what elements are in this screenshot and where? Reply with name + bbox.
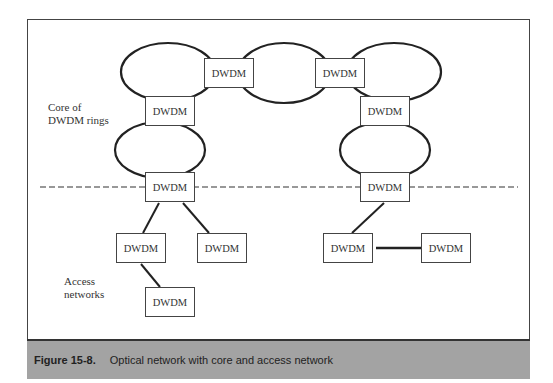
dwdm-node-right-access-a: DWDM — [323, 233, 373, 263]
dwdm-node-right-mid: DWDM — [360, 96, 410, 126]
dwdm-node-left-gateway: DWDM — [145, 172, 195, 202]
core-region-label: Core of DWDM rings — [48, 101, 109, 127]
dwdm-node-left-access-a: DWDM — [116, 233, 166, 263]
access-region-label: Access networks — [64, 275, 104, 301]
dwdm-node-right-gateway: DWDM — [360, 172, 410, 202]
dwdm-node-left-access-b: DWDM — [197, 233, 247, 263]
ring-left-lower — [115, 122, 205, 178]
dwdm-node-top-left: DWDM — [204, 58, 254, 88]
ring-top-left — [121, 43, 215, 101]
caption-number: Figure 15-8. — [34, 354, 96, 366]
caption-text: Optical network with core and access net… — [110, 354, 333, 366]
network-diagram — [0, 0, 553, 383]
figure-caption: Figure 15-8. Optical network with core a… — [27, 339, 530, 379]
dwdm-node-left-mid: DWDM — [145, 96, 195, 126]
dwdm-node-right-access-b: DWDM — [421, 233, 471, 263]
ring-right-lower — [340, 122, 430, 178]
dwdm-node-top-right: DWDM — [315, 58, 365, 88]
dwdm-node-left-access-c: DWDM — [145, 287, 195, 317]
